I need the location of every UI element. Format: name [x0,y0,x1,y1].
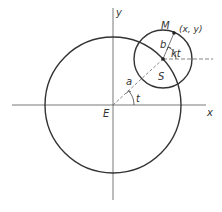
label-point-coords: (x, y) [179,24,202,34]
label-radius-b: b [160,39,166,50]
label-angle-kt: kt [171,48,182,59]
label-point-m: M [161,20,170,31]
label-x-axis: x [206,107,213,118]
label-origin-e: E [103,108,110,119]
point-s [161,57,165,61]
point-m [172,31,176,35]
label-center-s: S [158,71,165,82]
angle-t-arc [129,91,135,105]
label-angle-t: t [136,93,141,104]
label-radius-a: a [126,76,132,87]
epicycle-diagram: y x E S M (x, y) a b t kt [0,0,222,212]
label-y-axis: y [115,7,123,18]
